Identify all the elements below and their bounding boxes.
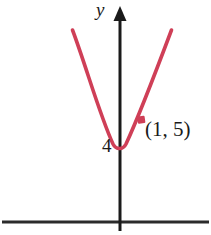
- y-intercept-label: 4: [102, 136, 112, 155]
- point-coordinate-label: (1, 5): [145, 119, 191, 140]
- up-arrow-icon: [114, 6, 127, 21]
- y-axis-label: y: [96, 0, 104, 19]
- parabola-figure: y 4 (1, 5): [0, 0, 211, 235]
